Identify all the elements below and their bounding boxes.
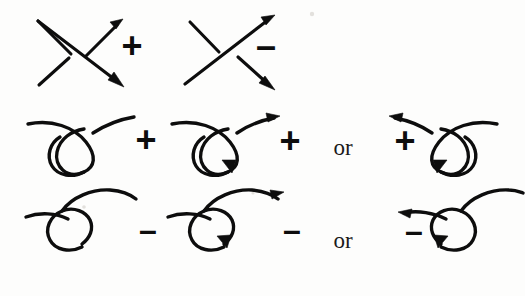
curl-strand-over-to-upper-right bbox=[461, 190, 523, 211]
curl-loop-lower bbox=[441, 137, 476, 175]
curl-strand-main bbox=[28, 123, 93, 175]
curl-tail-upper-right bbox=[93, 117, 134, 133]
over-strand-nw-to-se bbox=[38, 21, 118, 82]
sign-label: – bbox=[256, 25, 276, 66]
curl-loop-lower bbox=[49, 137, 84, 175]
sign-label: – bbox=[139, 212, 157, 248]
curl-tail-upper-left bbox=[26, 214, 68, 219]
figure-canvas: + – + bbox=[0, 0, 525, 296]
crossing-positive: + bbox=[38, 19, 143, 87]
or-connector-positive: or bbox=[333, 135, 353, 160]
paper-speck bbox=[82, 205, 86, 209]
under-strand-lower-left-segment bbox=[39, 58, 69, 85]
under-strand-upper-left-segment bbox=[190, 22, 219, 52]
curl-positive-oriented-right: + bbox=[172, 113, 301, 175]
under-strand-northeast-segment bbox=[86, 25, 117, 56]
curl-tail-upper-left bbox=[168, 214, 210, 219]
curl-positive-unoriented: + bbox=[28, 117, 157, 175]
arrowhead-southeast bbox=[108, 72, 124, 87]
sign-label: + bbox=[135, 119, 156, 160]
crossing-negative: – bbox=[185, 15, 276, 90]
arrowhead-tail-right bbox=[266, 113, 280, 122]
curl-negative-unoriented: – bbox=[26, 190, 157, 250]
paper-speck bbox=[310, 12, 314, 16]
crossing-sign-figure: + – + bbox=[0, 0, 525, 296]
sign-label: – bbox=[405, 213, 423, 249]
curl-negative-oriented-left: – bbox=[398, 190, 523, 250]
curl-negative-oriented-right: – bbox=[168, 190, 301, 250]
curl-loop-lower bbox=[193, 137, 228, 175]
or-connector-negative: or bbox=[333, 228, 353, 253]
sign-label: + bbox=[279, 120, 300, 161]
sign-label: + bbox=[394, 120, 415, 161]
sign-label: – bbox=[283, 212, 301, 248]
sign-label: + bbox=[121, 25, 142, 66]
curl-positive-oriented-left: + bbox=[389, 113, 497, 175]
